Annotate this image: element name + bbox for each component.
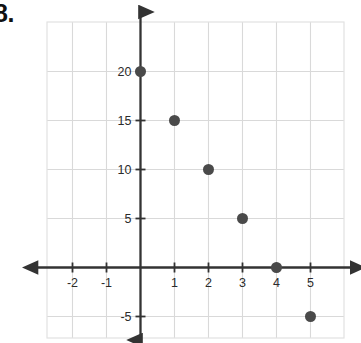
x-tick-label: -1 (101, 276, 112, 290)
data-point-marker (169, 115, 180, 126)
data-point-marker (203, 164, 214, 175)
data-point-marker (271, 262, 282, 273)
data-point-marker (305, 311, 316, 322)
plot-area-background (47, 22, 344, 338)
y-tick-label: 10 (118, 163, 132, 177)
x-tick-label: 2 (205, 276, 212, 290)
data-point-marker (135, 66, 146, 77)
scatter-plot-svg: -2-112345 -55101520 (0, 0, 361, 343)
y-tick-label: 15 (118, 114, 132, 128)
x-tick-label: 3 (239, 276, 246, 290)
y-tick-label: -5 (120, 310, 131, 324)
y-tick-label: 5 (125, 212, 132, 226)
data-point-marker (237, 213, 248, 224)
x-tick-label: 4 (273, 276, 280, 290)
x-tick-label: 5 (307, 276, 314, 290)
chart-figure: 8. -2-112 (0, 0, 361, 343)
y-tick-label: 20 (118, 65, 132, 79)
x-tick-label: -2 (67, 276, 78, 290)
x-tick-label: 1 (171, 276, 178, 290)
